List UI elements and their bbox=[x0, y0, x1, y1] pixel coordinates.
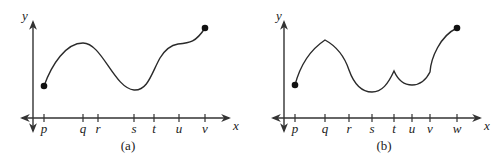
end-point-dot bbox=[202, 25, 209, 32]
tick-label-v: v bbox=[202, 121, 208, 136]
y-axis-label: y bbox=[274, 8, 282, 23]
tick-label-p: p bbox=[291, 121, 299, 136]
y-axis-label: y bbox=[20, 8, 28, 23]
tick-label-u: u bbox=[176, 121, 183, 136]
tick-label-t: t bbox=[392, 121, 396, 136]
tick-labels: p q r s t u v bbox=[40, 121, 208, 136]
curve-a bbox=[44, 28, 205, 90]
tick-label-w: w bbox=[453, 121, 462, 136]
tick-label-q: q bbox=[80, 121, 87, 136]
panel-b: y x p q r s t u v w (b) bbox=[273, 8, 490, 153]
panel-a: y x p q r s t u v (a) bbox=[20, 8, 239, 153]
start-point-dot bbox=[41, 83, 48, 90]
tick-label-p: p bbox=[40, 121, 48, 136]
x-axis-label: x bbox=[483, 118, 490, 133]
x-axis-label: x bbox=[232, 118, 239, 133]
tick-label-r: r bbox=[95, 121, 101, 136]
curve-b bbox=[295, 28, 457, 92]
tick-labels: p q r s t u v w bbox=[291, 121, 462, 136]
tick-label-s: s bbox=[369, 121, 374, 136]
start-point-dot bbox=[292, 82, 299, 89]
caption-a: (a) bbox=[121, 138, 135, 153]
tick-label-s: s bbox=[131, 121, 136, 136]
tick-label-u: u bbox=[409, 121, 416, 136]
tick-label-q: q bbox=[322, 121, 329, 136]
tick-label-r: r bbox=[346, 121, 352, 136]
tick-label-t: t bbox=[152, 121, 156, 136]
figure: y x p q r s t u v (a) y x bbox=[0, 0, 503, 161]
tick-label-v: v bbox=[427, 121, 433, 136]
caption-b: (b) bbox=[376, 138, 391, 153]
end-point-dot bbox=[454, 25, 461, 32]
